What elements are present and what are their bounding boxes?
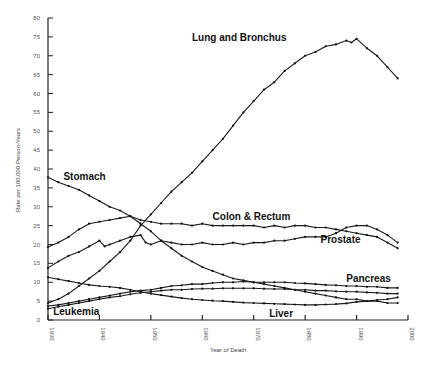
x-tick-label: 1940 [100, 327, 106, 341]
data-point [376, 299, 378, 301]
data-point [150, 213, 152, 215]
data-point [263, 226, 265, 228]
data-point [325, 294, 327, 296]
data-point [78, 189, 80, 191]
data-point [160, 287, 162, 289]
data-point [88, 223, 90, 225]
data-point [78, 228, 80, 230]
data-point [304, 291, 306, 293]
data-point [284, 70, 286, 72]
data-point [356, 285, 358, 287]
data-point [294, 238, 296, 240]
y-tick-label: 70 [33, 53, 40, 59]
data-point [57, 278, 59, 280]
data-point [242, 302, 244, 304]
data-point [47, 176, 49, 178]
data-point [325, 226, 327, 228]
data-point [88, 300, 90, 302]
data-point [397, 287, 399, 289]
series-label: Pancreas [346, 273, 391, 284]
series-label: Stomach [63, 171, 105, 182]
data-point [386, 302, 388, 304]
data-point [201, 223, 203, 225]
data-point [119, 251, 121, 253]
data-point [47, 308, 49, 310]
data-point [140, 223, 142, 225]
data-point [119, 293, 121, 295]
data-point [284, 281, 286, 283]
data-point [314, 290, 316, 292]
data-point [160, 223, 162, 225]
data-point [160, 294, 162, 296]
data-point [129, 293, 131, 295]
data-point [284, 288, 286, 290]
data-point [273, 281, 275, 283]
data-point [386, 234, 388, 236]
data-point [294, 303, 296, 305]
data-point [222, 138, 224, 140]
data-point [98, 298, 100, 300]
series-label: Prostate [321, 234, 361, 245]
data-point [191, 288, 193, 290]
data-point [397, 247, 399, 249]
data-point [181, 289, 183, 291]
x-tick-label: 1960 [203, 327, 209, 341]
data-point [335, 284, 337, 286]
data-point [376, 292, 378, 294]
data-point [68, 255, 70, 257]
data-point [304, 225, 306, 227]
data-point [212, 300, 214, 302]
data-point [98, 285, 100, 287]
data-point [201, 266, 203, 268]
data-point [232, 277, 234, 279]
data-point [78, 285, 80, 287]
y-tick-label: 15 [33, 260, 40, 266]
data-point [212, 288, 214, 290]
data-point [366, 286, 368, 288]
data-point [160, 290, 162, 292]
data-point [109, 260, 111, 262]
data-point [335, 43, 337, 45]
data-point [314, 283, 316, 285]
data-point [119, 217, 121, 219]
data-point [57, 181, 59, 183]
data-point [150, 221, 152, 223]
data-point [98, 270, 100, 272]
data-point [294, 289, 296, 291]
data-point [119, 287, 121, 289]
data-point [109, 296, 111, 298]
data-point [263, 288, 265, 290]
data-point [335, 228, 337, 230]
data-point [170, 242, 172, 244]
data-point [181, 181, 183, 183]
data-point [119, 295, 121, 297]
data-point [366, 225, 368, 227]
data-point [57, 298, 59, 300]
data-point [109, 294, 111, 296]
data-point [150, 293, 152, 295]
data-point [119, 209, 121, 211]
series-label: Colon & Rectum [213, 211, 291, 222]
data-point [140, 291, 142, 293]
data-point [68, 280, 70, 282]
data-point [98, 221, 100, 223]
data-point [314, 226, 316, 228]
data-point [68, 302, 70, 304]
data-point [366, 291, 368, 293]
data-point [150, 243, 152, 245]
data-point [304, 236, 306, 238]
data-point [88, 298, 90, 300]
data-point [170, 289, 172, 291]
data-point [222, 281, 224, 283]
data-point [345, 40, 347, 42]
data-point [263, 302, 265, 304]
data-point [232, 287, 234, 289]
data-point [253, 242, 255, 244]
data-point [356, 301, 358, 303]
y-axis: 05101520253035404550556065707580 [33, 15, 53, 323]
data-point [376, 286, 378, 288]
data-point [212, 243, 214, 245]
data-point [88, 277, 90, 279]
data-point [325, 303, 327, 305]
data-point [350, 41, 352, 43]
